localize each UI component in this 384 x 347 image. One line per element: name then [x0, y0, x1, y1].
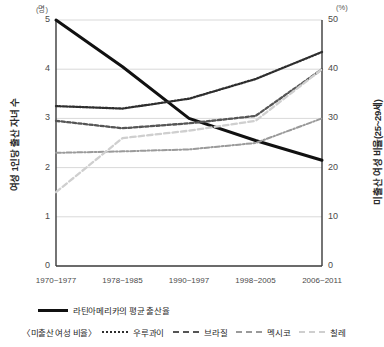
dashed-line-swatch-icon: [173, 331, 199, 333]
dotted-line-swatch-icon: [102, 331, 128, 333]
legend-row-secondary: 〈미출산 여성 비율〉 우루과이 브라질 멕시코 칠레: [22, 326, 372, 338]
legend-label-brazil: 브라질: [204, 326, 227, 338]
chart-legend: 라틴아메리카의 평균 출산율 〈미출산 여성 비율〉 우루과이 브라질 멕시코 …: [0, 300, 380, 347]
legend-label-primary: 라틴아메리카의 평균 출산율: [73, 304, 170, 316]
legend-item-mexico: 멕시코: [236, 326, 290, 338]
series-line: [56, 20, 322, 160]
legend-item-brazil: 브라질: [173, 326, 227, 338]
dash-dot-line-swatch-icon: [236, 331, 262, 333]
solid-line-swatch-icon: [38, 309, 68, 312]
legend-row-primary: 라틴아메리카의 평균 출산율: [38, 304, 170, 316]
series-line: [56, 52, 322, 109]
legend-group-prefix: 〈미출산 여성 비율〉: [22, 326, 96, 338]
legend-label-uruguay: 우루과이: [133, 326, 164, 338]
long-dash-line-swatch-icon: [299, 331, 325, 333]
legend-item-chile: 칠레: [299, 326, 345, 338]
series-line: [56, 69, 322, 192]
legend-item-uruguay: 우루과이: [102, 326, 164, 338]
legend-label-chile: 칠레: [330, 326, 345, 338]
legend-label-mexico: 멕시코: [267, 326, 290, 338]
